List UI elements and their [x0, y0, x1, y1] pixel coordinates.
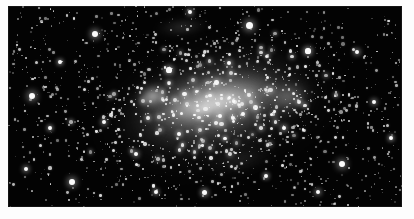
image-plate	[8, 6, 402, 207]
astronomical-photograph-figure	[0, 0, 414, 219]
night-sky-background	[8, 6, 402, 207]
